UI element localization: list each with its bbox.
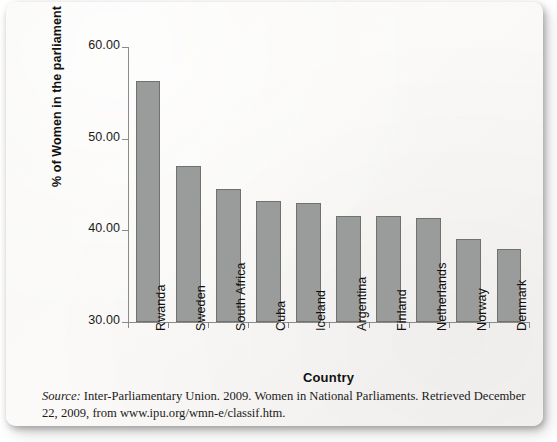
x-category-label: Argentina [355,277,369,331]
x-category-label: Rwanda [154,285,168,331]
x-category-label: Iceland [314,290,328,331]
x-category-label: South Africa [234,262,248,331]
x-category-label: Finland [395,289,409,331]
figure-page-sheet: 60.0050.0040.0030.00 RwandaSwedenSouth A… [6,2,543,426]
x-tick-mark [128,322,129,328]
x-tick-mark [529,322,530,328]
y-axis-title: % of Women in the parliament [50,6,64,187]
plot-area [128,47,529,322]
source-text: Inter-Parliamentary Union. 2009. Women i… [42,389,525,420]
source-label: Source: [42,389,81,403]
x-category-label: Denmark [515,280,529,331]
x-category-label: Netherlands [435,262,449,331]
y-tick-label: 50.00 [88,130,120,144]
bar-chart: 60.0050.0040.0030.00 RwandaSwedenSouth A… [24,12,527,380]
x-category-label: Cuba [274,301,288,331]
y-tick-label: 60.00 [88,38,120,52]
x-category-label: Norway [475,288,489,331]
source-caption: Source: Inter-Parliamentary Union. 2009.… [42,388,526,423]
x-tick-mark [489,322,490,328]
y-tick-label: 30.00 [88,313,120,327]
x-category-label: Sweden [194,285,208,331]
x-tick-mark [208,322,209,328]
x-tick-mark [168,322,169,328]
x-tick-mark [248,322,249,328]
x-axis-title: Country [128,370,529,385]
x-tick-mark [329,322,330,328]
y-tick-label: 40.00 [88,221,120,235]
x-tick-mark [288,322,289,328]
